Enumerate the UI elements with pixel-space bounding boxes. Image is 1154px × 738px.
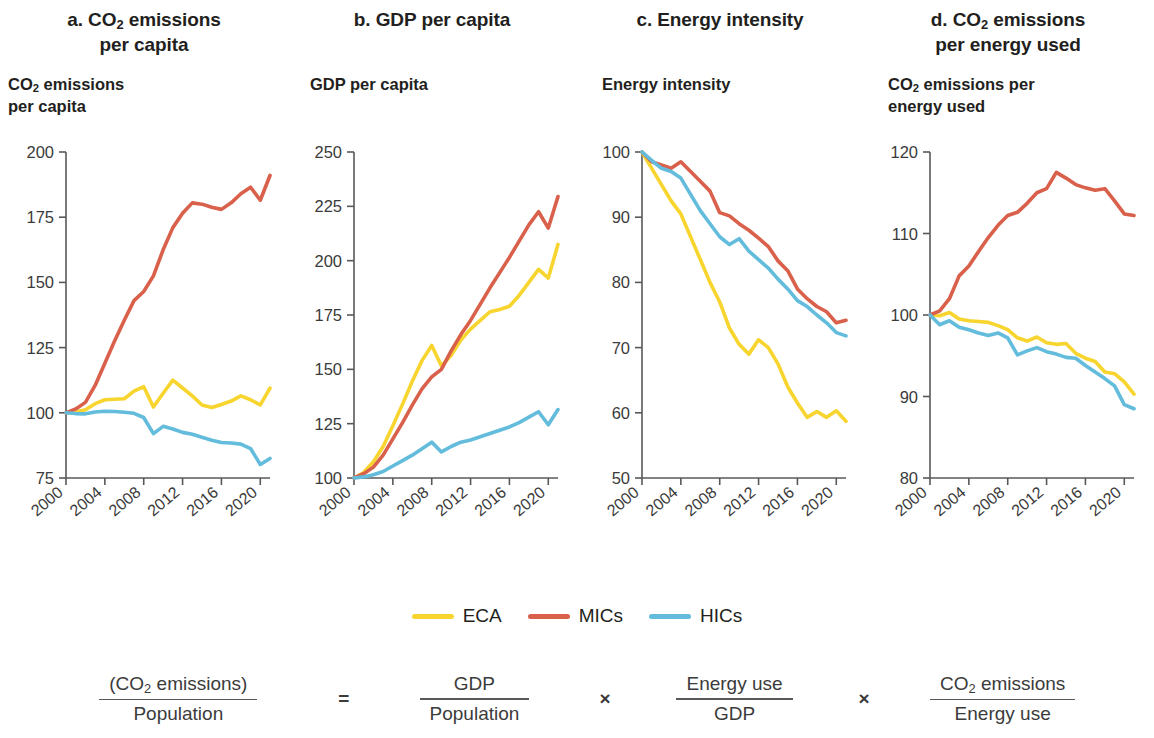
panel-c: c. Energy intensity Energy intensity 506… [576, 0, 864, 600]
equation-term-2: Energy use GDP [637, 673, 833, 725]
x-tick-label: 2020 [798, 483, 836, 519]
t3-numerator: CO2 emissions [930, 673, 1075, 699]
x-tick-label: 2012 [1008, 483, 1046, 519]
panel-b: b. GDP per capita GDP per capita 1001251… [288, 0, 576, 600]
legend-item-hics[interactable]: HICs [649, 605, 742, 627]
lhs-numerator: (CO2 emissions) [99, 673, 257, 699]
y-tick-label: 80 [612, 273, 630, 291]
x-tick-label: 2000 [892, 483, 930, 519]
chart-b: 1001251501752002252502000200420082012201… [288, 138, 576, 593]
legend-swatch-icon [412, 614, 454, 619]
y-tick-label: 50 [612, 469, 630, 487]
equation-lhs: (CO2 emissions) Population [44, 673, 312, 725]
panel-c-title-line1: c. Energy intensity [636, 9, 803, 30]
panel-d-title-line2: per energy used [935, 34, 1080, 55]
legend-label: ECA [463, 605, 502, 627]
t1-numerator: GDP [444, 673, 505, 698]
chart-c: 5060708090100200020042008201220162020 [576, 138, 864, 593]
fraction-gdp-per-population: GDP Population [420, 673, 530, 725]
y-tick-label: 200 [314, 252, 342, 270]
t1-denominator: Population [420, 700, 530, 725]
equation-term-1: GDP Population [375, 673, 573, 725]
chart-a: 7510012515017520020002004200820122016202… [0, 138, 288, 593]
panel-d-title: d. CO2 emissions per energy used [864, 8, 1152, 56]
panel-d-axis-title: CO2 emissions per energy used [888, 74, 1035, 116]
y-tick-label: 75 [36, 469, 54, 487]
t3-denominator: Energy use [945, 700, 1061, 725]
panel-b-axis-title: GDP per capita [310, 74, 428, 94]
x-tick-label: 2004 [931, 483, 969, 519]
y-tick-label: 150 [26, 273, 54, 291]
x-tick-label: 2012 [144, 483, 182, 519]
y-tick-label: 110 [892, 225, 918, 243]
panel-b-axis-title-line1: GDP per capita [310, 75, 428, 93]
x-tick-label: 2016 [471, 483, 509, 519]
panel-b-title-line1: b. GDP per capita [354, 9, 510, 30]
y-tick-label: 80 [900, 469, 918, 487]
x-tick-label: 2004 [67, 483, 105, 519]
panel-c-title: c. Energy intensity [576, 8, 864, 31]
x-tick-label: 2020 [1086, 483, 1124, 519]
series-line-eca [930, 313, 1134, 395]
legend-label: MICs [579, 605, 623, 627]
x-tick-label: 2008 [681, 483, 719, 519]
x-tick-label: 2008 [969, 483, 1007, 519]
legend-swatch-icon [649, 614, 691, 619]
panel-a-axis-title-line2: per capita [8, 97, 86, 115]
x-tick-label: 2004 [643, 483, 681, 519]
equals-sign: = [312, 688, 375, 710]
chart-d: 8090100110120200020042008201220162020 [864, 138, 1152, 593]
y-tick-label: 125 [314, 415, 342, 433]
decomposition-equation: (CO2 emissions) Population = GDP Populat… [0, 660, 1154, 738]
x-tick-label: 2000 [604, 483, 642, 519]
y-tick-label: 90 [612, 208, 630, 226]
x-tick-label: 2020 [510, 483, 548, 519]
y-tick-label: 100 [314, 469, 342, 487]
panel-a-title-line2: per capita [100, 34, 189, 55]
x-tick-label: 2000 [316, 483, 354, 519]
panel-a-title-line1: a. CO2 emissions [67, 9, 220, 30]
y-tick-label: 175 [26, 208, 54, 226]
x-tick-label: 2016 [183, 483, 221, 519]
panel-a-title: a. CO2 emissions per capita [0, 8, 288, 56]
panel-a-axis-title: CO2 emissions per capita [8, 74, 124, 116]
y-tick-label: 70 [612, 339, 630, 357]
x-tick-label: 2016 [1047, 483, 1085, 519]
series-line-eca [642, 152, 846, 421]
panel-b-title: b. GDP per capita [288, 8, 576, 31]
chart-legend: ECAMICsHICs [0, 605, 1154, 627]
legend-item-eca[interactable]: ECA [412, 605, 502, 627]
legend-item-mics[interactable]: MICs [528, 605, 623, 627]
series-line-mics [930, 172, 1134, 315]
panel-d-plot: 8090100110120200020042008201220162020 [864, 138, 1152, 597]
fraction-co2-per-population: (CO2 emissions) Population [99, 673, 257, 725]
x-tick-label: 2004 [355, 483, 393, 519]
times-sign-1: × [573, 688, 636, 710]
t2-denominator: GDP [704, 700, 765, 725]
lhs-denominator: Population [123, 700, 233, 725]
y-tick-label: 175 [314, 306, 342, 324]
legend-label: HICs [700, 605, 742, 627]
series-line-hics [642, 152, 846, 336]
panel-a: a. CO2 emissions per capita CO2 emission… [0, 0, 288, 600]
x-tick-label: 2012 [720, 483, 758, 519]
t2-numerator: Energy use [676, 673, 792, 698]
panel-a-plot: 7510012515017520020002004200820122016202… [0, 138, 288, 597]
y-tick-label: 250 [314, 143, 342, 161]
y-tick-label: 100 [890, 306, 918, 324]
series-line-mics [642, 152, 846, 323]
panel-d-title-line1: d. CO2 emissions [931, 9, 1085, 30]
panel-c-plot: 5060708090100200020042008201220162020 [576, 138, 864, 597]
equation-term-3: CO2 emissions Energy use [896, 673, 1110, 725]
panel-b-plot: 1001251501752002252502000200420082012201… [288, 138, 576, 597]
series-line-hics [66, 411, 270, 464]
series-line-mics [354, 197, 558, 478]
x-tick-label: 2016 [759, 483, 797, 519]
y-tick-label: 150 [314, 360, 342, 378]
y-tick-label: 90 [900, 388, 918, 406]
y-tick-label: 100 [602, 143, 630, 161]
x-tick-label: 2008 [393, 483, 431, 519]
panels-row: a. CO2 emissions per capita CO2 emission… [0, 0, 1154, 600]
series-line-hics [930, 315, 1134, 409]
y-tick-label: 225 [314, 197, 342, 215]
